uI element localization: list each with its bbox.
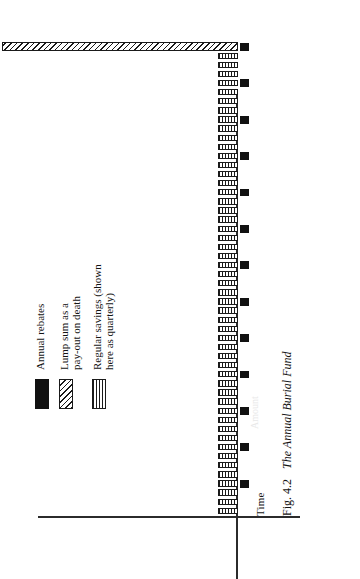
bar-regular-savings bbox=[218, 335, 238, 341]
bar-lump-sum-payout bbox=[2, 42, 238, 51]
value-axis-label: Amount bbox=[249, 396, 260, 429]
bar-regular-savings bbox=[218, 317, 238, 323]
bar-regular-savings bbox=[218, 189, 238, 195]
bar-annual-rebate bbox=[240, 298, 249, 306]
bar-regular-savings bbox=[218, 398, 238, 404]
solid-black-swatch bbox=[35, 379, 49, 409]
figure-container: Time Amount Fig. 4.2The Annual Burial Fu… bbox=[0, 0, 360, 579]
bar-regular-savings bbox=[218, 380, 238, 386]
horizontal-hatch-swatch bbox=[92, 379, 106, 409]
bar-regular-savings bbox=[218, 71, 238, 77]
bar-regular-savings bbox=[218, 162, 238, 168]
bar-regular-savings bbox=[218, 371, 238, 377]
bar-annual-rebate bbox=[240, 189, 249, 197]
bar-regular-savings bbox=[218, 216, 238, 222]
bar-regular-savings bbox=[218, 280, 238, 286]
bar-regular-savings bbox=[218, 362, 238, 368]
diagonal-hatch-swatch bbox=[59, 379, 73, 409]
bar-regular-savings bbox=[218, 144, 238, 150]
bar-regular-savings bbox=[218, 53, 238, 59]
rotated-page-stage: Time Amount Fig. 4.2The Annual Burial Fu… bbox=[0, 0, 360, 579]
bar-regular-savings bbox=[218, 344, 238, 350]
bar-regular-savings bbox=[218, 107, 238, 113]
caption-title: The Annual Burial Fund bbox=[280, 352, 294, 469]
bar-annual-rebate bbox=[240, 43, 249, 51]
bar-regular-savings bbox=[218, 98, 238, 104]
bar-regular-savings bbox=[218, 171, 238, 177]
bar-regular-savings bbox=[218, 198, 238, 204]
bar-annual-rebate bbox=[240, 79, 249, 87]
bar-regular-savings bbox=[218, 508, 238, 514]
bar-annual-rebate bbox=[240, 334, 249, 342]
bar-regular-savings bbox=[218, 471, 238, 477]
bar-regular-savings bbox=[218, 271, 238, 277]
bar-regular-savings bbox=[218, 226, 238, 232]
bar-annual-rebate bbox=[240, 371, 249, 379]
bar-annual-rebate bbox=[240, 407, 249, 415]
bar-annual-rebate bbox=[240, 225, 249, 233]
bar-annual-rebate bbox=[240, 443, 249, 451]
time-axis-label: Time bbox=[254, 492, 266, 516]
bar-regular-savings bbox=[218, 125, 238, 131]
bar-regular-savings bbox=[218, 180, 238, 186]
plot-area: Time Amount Fig. 4.2The Annual Burial Fu… bbox=[0, 0, 300, 579]
bar-regular-savings bbox=[218, 89, 238, 95]
bar-regular-savings bbox=[218, 435, 238, 441]
time-axis-line bbox=[38, 516, 300, 518]
bar-regular-savings bbox=[218, 80, 238, 86]
bar-regular-savings bbox=[218, 207, 238, 213]
bar-regular-savings bbox=[218, 307, 238, 313]
bar-regular-savings bbox=[218, 489, 238, 495]
legend-item: Annual rebates bbox=[34, 149, 49, 409]
legend-item-label: Lump sum as a pay-out on death bbox=[58, 296, 82, 370]
bar-regular-savings bbox=[218, 444, 238, 450]
caption-number: Fig. 4.2 bbox=[280, 479, 294, 516]
bar-regular-savings bbox=[218, 235, 238, 241]
bar-regular-savings bbox=[218, 353, 238, 359]
bar-annual-rebate bbox=[240, 480, 249, 488]
bar-regular-savings bbox=[218, 262, 238, 268]
legend-item: Regular savings (shown here as quarterly… bbox=[91, 149, 115, 409]
bar-regular-savings bbox=[218, 480, 238, 486]
bar-regular-savings bbox=[218, 426, 238, 432]
legend-item-label: Regular savings (shown here as quarterly… bbox=[91, 264, 115, 370]
bar-annual-rebate bbox=[240, 261, 249, 269]
bar-regular-savings bbox=[218, 389, 238, 395]
bar-regular-savings bbox=[218, 499, 238, 505]
legend-item-label: Annual rebates bbox=[34, 304, 46, 370]
bar-regular-savings bbox=[218, 453, 238, 459]
bar-regular-savings bbox=[218, 135, 238, 141]
bar-regular-savings bbox=[218, 462, 238, 468]
legend: Annual rebatesLump sum as a pay-out on d… bbox=[34, 149, 124, 409]
bar-annual-rebate bbox=[240, 116, 249, 124]
bar-regular-savings bbox=[218, 116, 238, 122]
bar-regular-savings bbox=[218, 408, 238, 414]
bar-regular-savings bbox=[218, 244, 238, 250]
bar-regular-savings bbox=[218, 298, 238, 304]
bar-annual-rebate bbox=[240, 152, 249, 160]
bar-regular-savings bbox=[218, 153, 238, 159]
bar-regular-savings bbox=[218, 289, 238, 295]
bar-regular-savings bbox=[218, 62, 238, 68]
bar-regular-savings bbox=[218, 326, 238, 332]
figure-caption: Fig. 4.2The Annual Burial Fund bbox=[280, 352, 295, 516]
bar-regular-savings bbox=[218, 253, 238, 259]
legend-item: Lump sum as a pay-out on death bbox=[58, 149, 82, 409]
bar-regular-savings bbox=[218, 417, 238, 423]
